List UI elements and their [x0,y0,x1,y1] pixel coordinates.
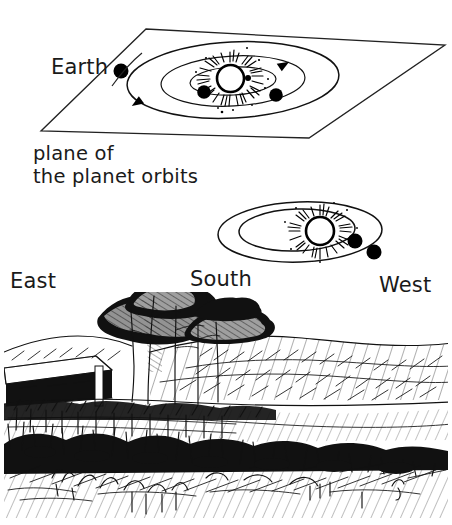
sun-icon-bottom [306,217,334,245]
planet-inner-marker [197,85,211,99]
illustration-root: Earth plane of the planet orbits [0,0,452,525]
planet-lower-outer-marker [367,245,382,260]
label-east: East [10,269,56,293]
planet-outer-marker [269,88,283,102]
label-west: West [379,273,431,297]
label-earth: Earth [51,55,108,79]
label-plane-line2: the planet orbits [33,165,198,188]
planet-earth-marker [114,64,129,79]
planet-lower-inner-marker [348,234,363,249]
label-plane-line1: plane of [33,142,115,165]
planet-small-marker [245,75,251,81]
sun-icon-top [217,65,244,92]
label-south: South [190,267,252,291]
illustration-canvas: Earth plane of the planet orbits [0,0,452,525]
barn-post [95,366,103,406]
